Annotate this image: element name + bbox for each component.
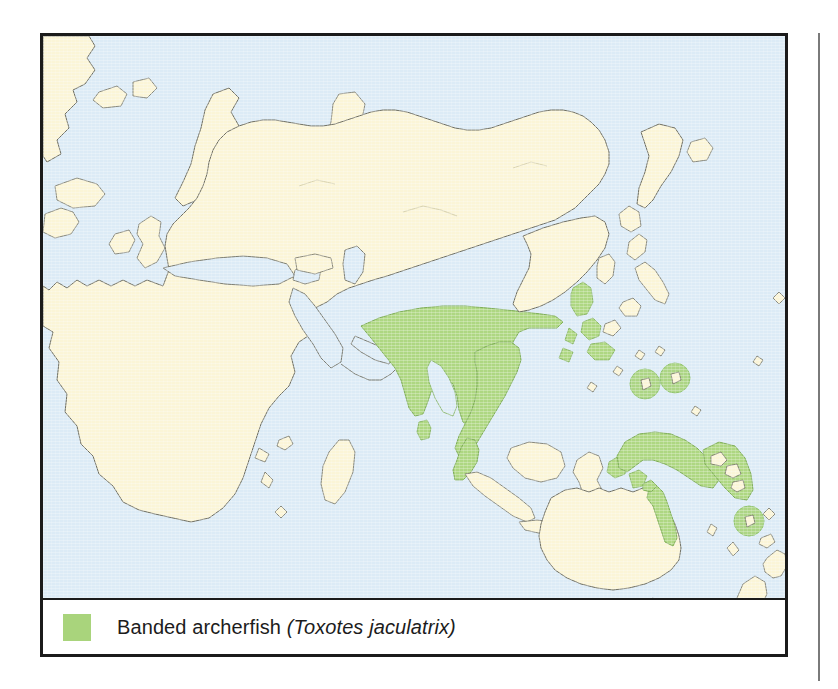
legend-label: Banded archerfish (Toxotes jaculatrix) (117, 616, 456, 639)
world-map[interactable]: .land { fill:#fbf5d7; stroke:#6f6f63; st… (43, 36, 785, 598)
legend-range-swatch (63, 614, 91, 641)
map-plate[interactable]: .land { fill:#fbf5d7; stroke:#6f6f63; st… (43, 36, 785, 598)
distribution-map-figure: .land { fill:#fbf5d7; stroke:#6f6f63; st… (40, 33, 788, 657)
legend-scientific-name: (Toxotes jaculatrix) (287, 616, 456, 638)
page-column-rule (818, 33, 820, 681)
map-legend: Banded archerfish (Toxotes jaculatrix) (43, 600, 785, 654)
legend-common-name: Banded archerfish (117, 616, 281, 638)
